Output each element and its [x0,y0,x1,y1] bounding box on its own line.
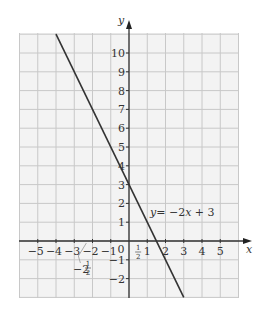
y-tick-label: 1 [118,216,125,229]
line-graph: xy −5−4−3−2−112345−2−1123456789100 y= −2… [0,0,265,319]
origin-label: 0 [118,243,125,256]
y-tick-label: 7 [118,103,125,116]
x-tick-label: −2 [82,245,98,258]
mixed-number-denominator: 2 [86,269,90,277]
y-tick-label: 6 [118,122,125,135]
mixed-number-numerator: 1 [86,260,90,268]
y-tick-label: 5 [118,141,125,154]
x-tick-label: −4 [46,245,62,258]
x-tick-label: 5 [217,245,224,258]
chart-figure: xy −5−4−3−2−112345−2−1123456789100 y= −2… [0,0,265,319]
y-tick-label: 10 [111,47,125,60]
y-tick-label: −2 [109,273,125,286]
y-tick-label: 9 [118,66,125,79]
y-tick-label: 8 [118,85,125,98]
half-denominator: 2 [136,253,140,261]
half-numerator: 1 [136,244,140,252]
y-axis-arrow-icon [126,20,132,29]
x-tick-label: 1 [144,245,151,258]
x-tick-label: 4 [199,245,206,258]
x-tick-label: −5 [28,245,44,258]
y-tick-label: 2 [118,197,125,210]
x-tick-label: 3 [180,245,187,258]
y-tick-label: 3 [118,179,125,192]
y-axis-label: y [117,14,125,27]
x-tick-label: −3 [64,245,80,258]
line-equation-label: y= −2x + 3 [149,206,215,219]
x-axis-label: x [246,243,253,256]
